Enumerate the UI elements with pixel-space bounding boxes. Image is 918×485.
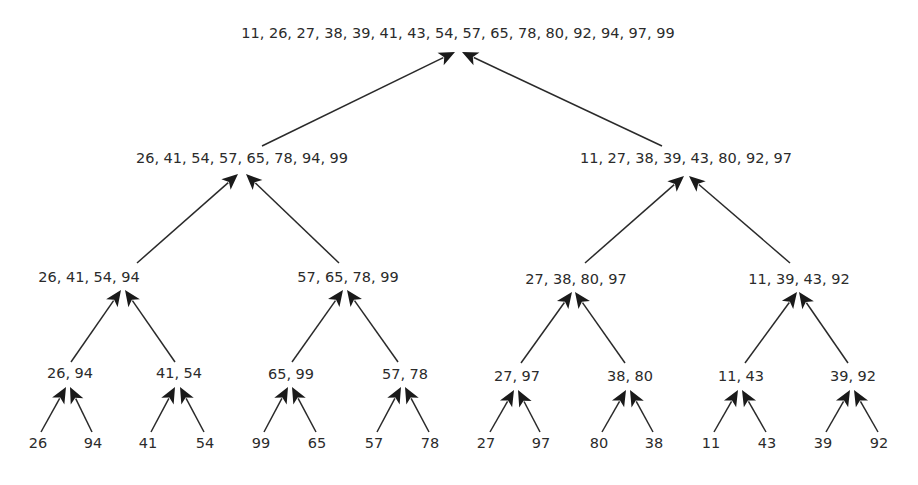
edge-arrow [742, 390, 766, 432]
arrowhead-icon [782, 292, 797, 309]
tree-node-l12: 38 [645, 436, 663, 451]
tree-node-RR: 11, 39, 43, 92 [748, 272, 849, 287]
edge-line [186, 398, 204, 432]
edge-line [699, 184, 790, 263]
tree-node-root: 11, 26, 27, 38, 39, 41, 43, 54, 57, 65, … [241, 26, 675, 41]
edge-line [826, 401, 844, 432]
arrowhead-icon [387, 387, 401, 404]
edge-arrow [854, 390, 878, 432]
arrowhead-icon [724, 390, 738, 407]
edge-line [355, 301, 398, 362]
tree-node-L: 26, 41, 54, 57, 65, 78, 94, 99 [136, 151, 348, 166]
edge-arrow [585, 176, 684, 263]
edge-line [41, 398, 60, 432]
edge-line [521, 303, 564, 363]
arrowhead-icon [500, 390, 514, 407]
tree-node-l5: 99 [252, 436, 270, 451]
edge-arrow [151, 387, 175, 432]
arrowhead-icon [274, 387, 288, 404]
tree-node-l14: 43 [758, 436, 776, 451]
tree-node-RL: 27, 38, 80, 97 [525, 272, 626, 287]
tree-node-l8: 78 [421, 436, 439, 451]
edge-line [411, 398, 429, 432]
edge-arrow [125, 290, 175, 362]
tree-node-LRR: 57, 78 [382, 367, 428, 382]
arrowhead-icon [52, 387, 66, 404]
tree-node-l4: 54 [196, 436, 214, 451]
edge-arrow [41, 387, 66, 432]
edge-arrow [521, 292, 572, 363]
edge-arrow [518, 390, 540, 432]
edge-line [748, 401, 766, 432]
edge-line [71, 301, 114, 362]
edge-arrow [264, 387, 288, 432]
arrowhead-icon [180, 387, 194, 404]
edge-arrow [714, 390, 738, 432]
tree-node-RRR: 39, 92 [830, 369, 876, 384]
edge-arrow [490, 390, 514, 432]
edge-line [262, 58, 443, 146]
edge-arrow [575, 292, 625, 363]
tree-node-RRL: 11, 43 [718, 369, 764, 384]
edge-line [377, 398, 395, 432]
tree-node-l11: 80 [590, 436, 608, 451]
edge-arrow [799, 292, 848, 363]
edge-line [524, 402, 540, 432]
edge-line [490, 401, 508, 432]
edge-line [137, 183, 228, 263]
edge-arrow [462, 52, 662, 146]
tree-node-l6: 65 [308, 436, 326, 451]
edge-line [132, 301, 175, 362]
arrowhead-icon [161, 387, 175, 404]
arrowhead-icon [630, 390, 644, 407]
tree-node-l1: 26 [29, 436, 47, 451]
edge-arrow [262, 52, 455, 146]
tree-node-LR: 57, 65, 78, 99 [297, 270, 398, 285]
edge-arrow [180, 387, 204, 432]
tree-node-LL: 26, 41, 54, 94 [38, 270, 139, 285]
tree-node-LLR: 41, 54 [156, 366, 202, 381]
edge-arrow [377, 387, 401, 432]
arrowhead-icon [328, 290, 343, 307]
edge-arrow [405, 387, 429, 432]
edge-arrow [347, 290, 398, 362]
tree-node-l3: 41 [139, 436, 157, 451]
edge-arrow [745, 292, 797, 363]
edge-arrow [292, 387, 316, 432]
arrowhead-icon [667, 176, 684, 192]
edge-line [745, 302, 789, 363]
edge-line [298, 398, 316, 432]
tree-node-l10: 97 [532, 436, 550, 451]
tree-node-RLR: 38, 80 [607, 369, 653, 384]
arrowhead-icon [292, 387, 306, 404]
tree-node-l13: 11 [702, 436, 720, 451]
arrowhead-icon [575, 292, 590, 309]
edge-arrow [137, 174, 238, 263]
arrowhead-icon [854, 390, 868, 407]
arrowhead-icon [836, 390, 850, 407]
edge-arrow [630, 390, 653, 432]
edge-line [582, 303, 625, 363]
tree-node-l15: 39 [814, 436, 832, 451]
edge-line [151, 398, 169, 432]
tree-node-l16: 92 [870, 436, 888, 451]
tree-node-RLL: 27, 97 [494, 369, 540, 384]
arrowhead-icon [689, 176, 706, 192]
edge-line [806, 303, 848, 363]
tree-node-l9: 27 [477, 436, 495, 451]
edge-line [860, 401, 878, 432]
arrowhead-icon [106, 290, 121, 307]
arrowhead-icon [799, 292, 814, 309]
edge-arrow [826, 390, 850, 432]
edge-line [264, 398, 282, 432]
edge-line [714, 401, 732, 432]
edge-line [585, 185, 674, 263]
arrowhead-icon [405, 387, 419, 404]
edge-line [255, 183, 339, 263]
tree-node-R: 11, 27, 38, 39, 43, 80, 92, 97 [580, 151, 792, 166]
merge-sort-tree-diagram [0, 0, 918, 485]
edge-line [76, 399, 92, 432]
arrowhead-icon [612, 390, 626, 407]
edge-arrow [70, 387, 92, 432]
edge-line [636, 401, 653, 432]
